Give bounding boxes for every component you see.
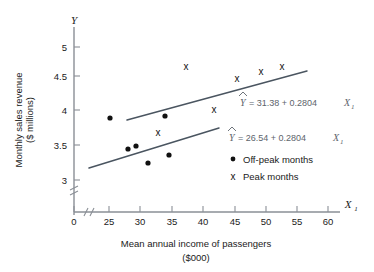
- peak-fit-hat-icon: [239, 92, 247, 96]
- peak-fit-equation-symbol: Y: [240, 97, 247, 108]
- data-point-peak: x: [184, 61, 189, 72]
- x-ticklabel-45: 45: [230, 216, 241, 227]
- x-ticklabel-30: 30: [135, 216, 146, 227]
- data-point-offpeak: [166, 152, 171, 157]
- x-ticklabel-25: 25: [104, 216, 115, 227]
- x-axis-symbol: X: [344, 198, 353, 210]
- legend-dot-icon: [231, 157, 236, 162]
- peak-fit-line: [127, 71, 307, 120]
- offpeak-fit-equation-symbol: Y: [229, 132, 236, 143]
- y-ticklabel-5: 5: [62, 42, 67, 53]
- y-axis-title: Monthly sales revenue ($ millions): [13, 72, 35, 167]
- legend-label-peak: Peak months: [243, 171, 299, 182]
- peak-fit-equation-body: = 31.38 + 0.2804: [249, 98, 317, 108]
- x-ticklabel-60: 60: [323, 216, 334, 227]
- legend-label-off-peak: Off-peak months: [243, 154, 313, 165]
- x-axis: 0 25 30 35 40 45 50 55 60 X 1: [71, 198, 357, 227]
- y-axis-title-line1: Monthly sales revenue: [13, 72, 24, 167]
- x-ticklabel-0: 0: [71, 216, 76, 227]
- x-axis-title-line2: ($000): [182, 252, 209, 263]
- data-point-peak: x: [280, 61, 285, 72]
- legend-x-icon: x: [231, 171, 236, 182]
- x-ticklabel-40: 40: [198, 216, 209, 227]
- data-point-offpeak: [125, 146, 130, 151]
- y-ticklabel-3p5: 3.5: [54, 140, 67, 151]
- y-axis: 5 4.5 4 3.5 3 Y: [54, 14, 80, 215]
- chart-legend: Off-peak months x Peak months: [231, 154, 314, 182]
- data-point-offpeak: [107, 115, 112, 120]
- x-ticklabel-50: 50: [261, 216, 272, 227]
- y-ticklabel-4: 4: [62, 105, 67, 116]
- y-axis-symbol: Y: [71, 14, 79, 26]
- plot-canvas: 5 4.5 4 3.5 3 Y Monthly sales revenue ($…: [0, 0, 374, 272]
- offpeak-fit-equation: Y = 26.54 + 0.2804 X 1: [228, 127, 344, 146]
- scatter-plot-figure: 5 4.5 4 3.5 3 Y Monthly sales revenue ($…: [0, 0, 374, 272]
- y-axis-title-line2: ($ millions): [24, 97, 35, 143]
- y-ticklabel-4p5: 4.5: [54, 71, 67, 82]
- data-point-offpeak: [145, 160, 150, 165]
- x-ticklabel-55: 55: [292, 216, 303, 227]
- x-axis-title-line1: Mean annual income of passengers: [121, 238, 272, 249]
- data-point-peak: x: [212, 104, 217, 115]
- peak-fit-equation: Y = 31.38 + 0.2804 X 1: [239, 92, 355, 111]
- data-point-peak: x: [235, 73, 240, 84]
- offpeak-fit-hat-icon: [228, 127, 236, 131]
- y-ticklabel-3: 3: [62, 175, 67, 186]
- offpeak-fit-equation-var-subscript: 1: [340, 138, 344, 146]
- peak-fit-equation-var: X: [343, 97, 351, 108]
- legend-item-peak-months: x Peak months: [231, 171, 299, 182]
- x-axis-title: Mean annual income of passengers ($000): [121, 238, 272, 263]
- series-off-peak-months: [107, 113, 171, 165]
- data-point-peak: x: [259, 66, 264, 77]
- data-point-peak: x: [156, 127, 161, 138]
- legend-item-off-peak-months: Off-peak months: [231, 154, 314, 165]
- peak-fit-equation-var-subscript: 1: [351, 103, 355, 111]
- x-ticklabel-35: 35: [167, 216, 178, 227]
- offpeak-fit-equation-body: = 26.54 + 0.2804: [238, 133, 306, 143]
- data-point-offpeak: [162, 113, 167, 118]
- offpeak-fit-line: [89, 128, 219, 168]
- x-axis-symbol-subscript: 1: [354, 205, 358, 213]
- data-point-offpeak: [133, 143, 138, 148]
- offpeak-fit-equation-var: X: [332, 132, 340, 143]
